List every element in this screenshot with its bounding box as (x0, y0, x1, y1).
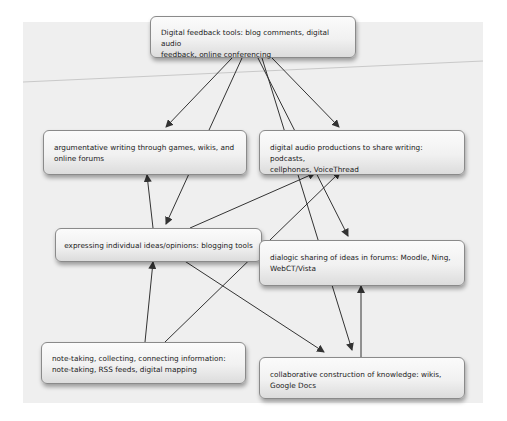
node-label-line: online forums (54, 153, 238, 164)
edge-feedback-audio (272, 58, 339, 127)
node-label-line: digital audio productions to share writi… (270, 142, 456, 164)
node-label-line: Google Docs (270, 380, 456, 391)
node-note-taking[interactable]: note-taking, collecting, connecting info… (41, 342, 246, 384)
edge-blogging-audio (190, 173, 315, 228)
edge-feedback-argumentative (166, 58, 232, 127)
node-label-line: note-taking, RSS feeds, digital mapping (52, 364, 237, 375)
node-label-line: Digital feedback tools: blog comments, d… (161, 27, 347, 49)
node-expressing-ideas-blogging[interactable]: expressing individual ideas/opinions: bl… (55, 228, 262, 262)
node-label-line: feedback, online conferencing (161, 49, 347, 60)
edge-blogging-argumentative (147, 175, 153, 228)
node-collaborative-construction[interactable]: collaborative construction of knowledge:… (259, 357, 465, 399)
node-label-line: argumentative writing through games, wik… (54, 142, 238, 153)
node-argumentative-writing[interactable]: argumentative writing through games, wik… (43, 130, 247, 175)
node-label-line: expressing individual ideas/opinions: bl… (64, 240, 253, 251)
node-label-line: dialogic sharing of ideas in forums: Moo… (270, 252, 456, 263)
node-digital-audio-productions[interactable]: digital audio productions to share writi… (259, 130, 465, 175)
node-dialogic-sharing-forums[interactable]: dialogic sharing of ideas in forums: Moo… (259, 240, 465, 286)
edge-notetaking-blogging (145, 262, 153, 342)
node-label-line: note-taking, collecting, connecting info… (52, 353, 237, 364)
node-label-line: collaborative construction of knowledge:… (270, 369, 456, 380)
node-label-line: WebCT/Vista (270, 263, 456, 274)
node-digital-feedback-tools[interactable]: Digital feedback tools: blog comments, d… (150, 16, 356, 58)
node-label-line: cellphones, VoiceThread (270, 164, 456, 175)
